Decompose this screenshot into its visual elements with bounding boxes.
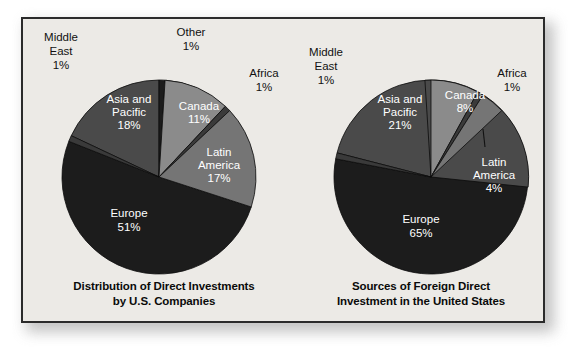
- pie-chart-right: Asia and Pacific 21% Canada 8% Europe 65…: [309, 46, 529, 307]
- slice-label-line1: Asia and: [107, 93, 152, 105]
- slice-label-value: 1%: [256, 81, 273, 93]
- slice-label-line2: America: [198, 159, 241, 171]
- slice-label-line1: Latin: [207, 146, 232, 158]
- chart-panel: Asia and Pacific 18% Canada 11% Latin Am…: [21, 17, 545, 323]
- slice-label-value: 1%: [183, 40, 200, 52]
- chart-caption-right: Sources of Foreign Direct Investment in …: [337, 280, 505, 307]
- slice-label-line2: America: [473, 169, 516, 181]
- caption-line1: Sources of Foreign Direct: [352, 280, 490, 292]
- slice-label-value: 65%: [409, 227, 432, 239]
- pie-slice-label-africa-right: Africa 1%: [497, 67, 527, 93]
- slice-label-value: 17%: [207, 172, 230, 184]
- slice-label-line1: Africa: [249, 67, 279, 79]
- pie-charts-svg: Asia and Pacific 18% Canada 11% Latin Am…: [23, 19, 543, 321]
- slice-label-value: 4%: [486, 182, 503, 194]
- figure-root: Asia and Pacific 18% Canada 11% Latin Am…: [0, 0, 578, 356]
- caption-line2: Investment in the United States: [337, 295, 505, 307]
- slice-label-line1: Canada: [445, 89, 486, 101]
- slice-label-line1: Canada: [179, 100, 220, 112]
- pie-slice-label-africa-left: Africa 1%: [249, 67, 279, 93]
- slice-label-line1: Middle: [309, 46, 343, 58]
- slice-label-line2: Pacific: [112, 106, 146, 118]
- slice-label-line2: East: [49, 45, 73, 57]
- slice-label-line1: Latin: [482, 156, 507, 168]
- pie-slice-label-middle-east-right: Middle East 1%: [309, 46, 343, 86]
- slice-label-line1: Africa: [497, 67, 527, 79]
- slice-label-value: 8%: [457, 102, 474, 114]
- slice-label-line1: Asia and: [378, 93, 423, 105]
- charts-area: Asia and Pacific 18% Canada 11% Latin Am…: [23, 19, 543, 321]
- slice-label-value: 21%: [388, 119, 411, 131]
- slice-label-value: 1%: [504, 81, 521, 93]
- slice-label-value: 1%: [53, 59, 70, 71]
- slice-label-line2: Pacific: [383, 106, 417, 118]
- pie-chart-left: Asia and Pacific 18% Canada 11% Latin Am…: [44, 26, 279, 307]
- pie-slice-label-other-left: Other 1%: [177, 26, 206, 52]
- slice-label-line1: Other: [177, 26, 206, 38]
- caption-line2: by U.S. Companies: [113, 295, 215, 307]
- slice-label-value: 18%: [117, 119, 140, 131]
- slice-label-line2: East: [314, 60, 338, 72]
- slice-label-line1: Europe: [402, 213, 439, 225]
- slice-label-value: 11%: [188, 113, 210, 125]
- slice-label-line1: Middle: [44, 31, 78, 43]
- chart-caption-left: Distribution of Direct Investments by U.…: [73, 280, 254, 307]
- caption-line1: Distribution of Direct Investments: [73, 280, 254, 292]
- slice-label-value: 1%: [318, 74, 335, 86]
- slice-label-line1: Europe: [110, 207, 147, 219]
- pie-slice-label-middle-east-left: Middle East 1%: [44, 31, 78, 71]
- slice-label-value: 51%: [117, 221, 140, 233]
